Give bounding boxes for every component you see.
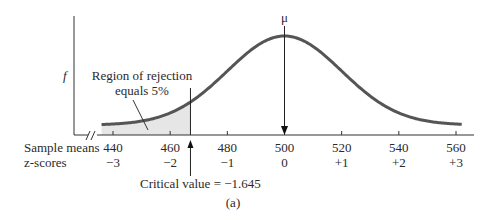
- x-tick-label-sample-mean: 520: [332, 140, 352, 155]
- x-row-label-z-scores: z-scores: [24, 155, 67, 170]
- critical-value-arrowhead-icon: [187, 140, 193, 148]
- x-tick-label-sample-mean: 460: [160, 140, 180, 155]
- x-tick-label-sample-mean: 540: [389, 140, 409, 155]
- normal-distribution-chart: 440−3460−2480−15000520+1540+2560+3 f Sam…: [0, 0, 496, 220]
- x-tick-label-z-score: −3: [106, 155, 120, 170]
- rejection-region-shade: [102, 102, 191, 135]
- mean-label: μ: [281, 10, 288, 25]
- x-tick-label-z-score: +1: [335, 155, 349, 170]
- x-row-label-sample-means: Sample means: [24, 140, 99, 155]
- x-tick-label-sample-mean: 440: [103, 140, 123, 155]
- rejection-region-label-line1: Region of rejection: [92, 68, 193, 83]
- x-tick-label-z-score: +2: [392, 155, 406, 170]
- x-tick-labels: 440−3460−2480−15000520+1540+2560+3: [103, 140, 466, 170]
- x-tick-label-sample-mean: 480: [218, 140, 238, 155]
- x-tick-label-z-score: +3: [449, 155, 463, 170]
- x-tick-label-z-score: 0: [281, 155, 288, 170]
- x-tick-label-z-score: −2: [163, 155, 177, 170]
- x-tick-label-sample-mean: 560: [446, 140, 466, 155]
- rejection-region-label-line2: equals 5%: [115, 83, 169, 98]
- critical-value-label: Critical value = −1.645: [140, 176, 261, 191]
- mean-arrowhead-icon: [281, 126, 288, 135]
- figure-caption: (a): [226, 195, 240, 210]
- x-tick-label-z-score: −1: [220, 155, 234, 170]
- y-axis-label: f: [63, 68, 69, 83]
- x-tick-label-sample-mean: 500: [275, 140, 295, 155]
